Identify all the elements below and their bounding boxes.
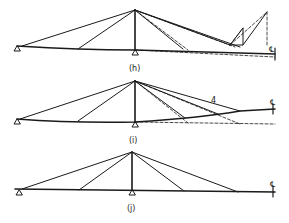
cable — [22, 10, 135, 46]
deck-i — [17, 109, 275, 122]
cable-tag: 4 — [211, 96, 216, 105]
centerline-i: ℄ — [270, 98, 276, 107]
panel-label-j: (j) — [127, 204, 135, 213]
panel-h — [14, 10, 275, 60]
centerline-j: ℄ — [270, 180, 276, 189]
centerline-h: ℄ — [269, 45, 275, 54]
deck-h — [17, 46, 275, 54]
panel-i — [14, 81, 275, 127]
bridge-diagram: (h) ℄ (i) ℄ 4 (j) ℄ — [0, 0, 289, 223]
panel-j — [15, 152, 275, 197]
panel-label-i: (i) — [129, 136, 137, 145]
panel-label-h: (h) — [129, 64, 140, 73]
